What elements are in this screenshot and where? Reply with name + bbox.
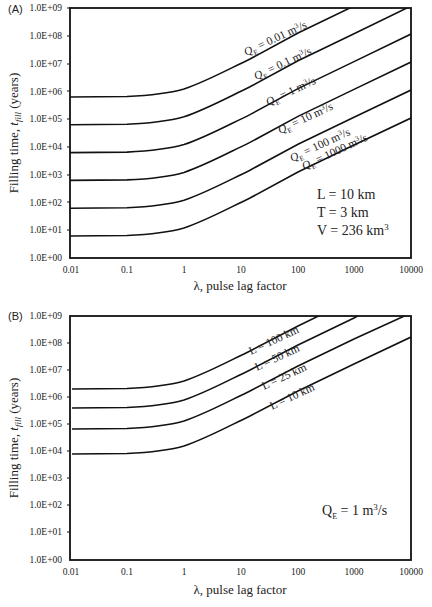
- x-tick: 1000: [345, 567, 364, 577]
- x-tick: 1: [182, 567, 187, 577]
- x-tick: 100: [291, 265, 306, 275]
- chart-a: (A) 1.0E+09 1.0E+08 1.0E+07 1.0E+06 1.0E…: [6, 0, 423, 293]
- figure: (A) 1.0E+09 1.0E+08 1.0E+07 1.0E+06 1.0E…: [0, 0, 432, 607]
- curve-l-50: [72, 308, 372, 408]
- y-tick: 1.0E+09: [29, 311, 62, 321]
- curve-labels-b: L = 100 km L = 50 km L = 25 km L = 10 km: [247, 323, 317, 412]
- curve-labels-a: QE = 0.01 m3/s QE = 0.1 m3/s QE = 1 m3/s…: [242, 18, 371, 175]
- y-tick: 1.0E+00: [29, 555, 62, 565]
- x-tick: 1000: [345, 265, 364, 275]
- x-axis-ticks-a: 0.01 0.1 1 10 100 1000 10000: [63, 265, 423, 275]
- note-length: L = 10 km: [317, 187, 375, 202]
- x-tick: 0.1: [121, 265, 133, 275]
- y-tick: 1.0E+00: [29, 253, 62, 263]
- panel-tag-b: (B): [8, 310, 23, 322]
- y-tick: 1.0E+08: [29, 31, 62, 41]
- panel-tag-a: (A): [8, 3, 23, 15]
- note-thickness: T = 3 km: [317, 205, 369, 220]
- x-tick: 10: [236, 567, 246, 577]
- y-axis-label-b: Filling time, tfill (years): [6, 378, 23, 499]
- x-axis-ticks-b: 0.01 0.1 1 10 100 1000 10000: [63, 567, 423, 577]
- y-tick: 1.0E+09: [29, 3, 62, 13]
- y-axis-ticks-a: 1.0E+09 1.0E+08 1.0E+07 1.0E+06 1.0E+05 …: [29, 3, 70, 263]
- x-axis-label-a: λ, pulse lag factor: [194, 278, 288, 293]
- y-axis-ticks-b: 1.0E+09 1.0E+08 1.0E+07 1.0E+06 1.0E+05 …: [29, 311, 70, 565]
- y-tick: 1.0E+03: [29, 170, 62, 180]
- y-tick: 1.0E+06: [29, 392, 62, 402]
- x-tick: 0.1: [121, 567, 133, 577]
- y-tick: 1.0E+02: [29, 500, 62, 510]
- x-tick: 0.01: [63, 265, 80, 275]
- curve-l-25: [72, 313, 411, 429]
- y-tick: 1.0E+07: [29, 365, 62, 375]
- x-tick: 10000: [399, 265, 423, 275]
- x-axis-label-b: λ, pulse lag factor: [194, 582, 288, 597]
- note-volume: V = 236 km3: [317, 222, 389, 238]
- note-discharge: QE = 1 m3/s: [322, 502, 387, 521]
- y-tick: 1.0E+01: [29, 225, 62, 235]
- y-tick: 1.0E+01: [29, 527, 62, 537]
- chart-b: (B) 1.0E+09 1.0E+08 1.0E+07 1.0E+06 1.0E…: [6, 308, 423, 597]
- curves-b: [72, 308, 411, 454]
- parameters-note-a: L = 10 km T = 3 km V = 236 km3: [317, 187, 389, 238]
- x-tick: 10000: [399, 567, 423, 577]
- curve-q-10: [70, 62, 411, 180]
- x-tick: 0.01: [63, 567, 80, 577]
- plot-frame-b: [70, 316, 411, 560]
- curve-q-0.1: [70, 6, 411, 125]
- y-tick: 1.0E+04: [29, 142, 62, 152]
- x-tick: 10: [236, 265, 246, 275]
- y-tick: 1.0E+08: [29, 338, 62, 348]
- y-tick: 1.0E+03: [29, 473, 62, 483]
- y-tick: 1.0E+06: [29, 87, 62, 97]
- y-axis-label-a: Filling time, tfill (years): [6, 73, 23, 194]
- y-tick: 1.0E+05: [29, 114, 62, 124]
- y-tick: 1.0E+07: [29, 59, 62, 69]
- x-tick: 1: [182, 265, 187, 275]
- curve-label: QE = 1 m3/s: [264, 74, 319, 110]
- x-tick: 100: [291, 567, 306, 577]
- curve-label: QE = 10 m3/s: [276, 100, 337, 139]
- y-tick: 1.0E+04: [29, 446, 62, 456]
- y-tick: 1.0E+05: [29, 419, 62, 429]
- y-tick: 1.0E+02: [29, 198, 62, 208]
